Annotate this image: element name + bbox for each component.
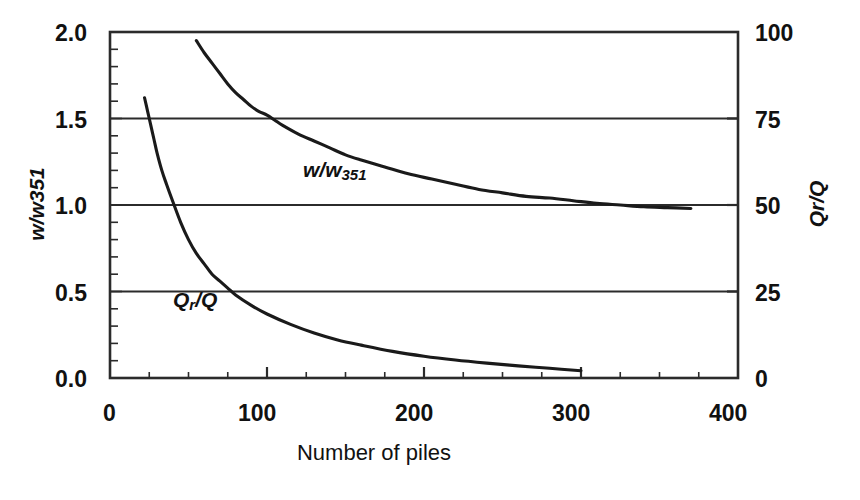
- y-axis-right-tick-label: 75: [755, 107, 781, 134]
- curve-label-q-base: Q: [173, 288, 189, 311]
- y-axis-right-tick-label: 25: [755, 280, 781, 307]
- y-axis-left-tick-label: 1.5: [55, 107, 87, 134]
- x-axis-tick-label: 100: [238, 400, 276, 427]
- x-axis-tick-label: 200: [395, 400, 433, 427]
- x-axis-tick-label: 0: [103, 400, 116, 427]
- curve-label-w-subscript: 351: [342, 166, 367, 183]
- x-axis-tick-label: 400: [709, 400, 747, 427]
- x-axis-title: Number of piles: [0, 440, 748, 466]
- curve-label-q-tail: /Q: [195, 288, 217, 311]
- chart-figure: 2.0 1.5 1.0 0.5 0.0 100 75 50 25 0 0 100…: [0, 0, 860, 500]
- curve-label-w-base: w/w: [303, 158, 342, 181]
- y-axis-right-tick-label: 100: [755, 20, 793, 47]
- y-axis-left-tick-label: 0.5: [55, 280, 87, 307]
- y-axis-right-title: Qr/Q: [805, 129, 829, 279]
- y-axis-left-title: w/w351: [25, 129, 49, 279]
- y-axis-left-tick-label: 2.0: [55, 20, 87, 47]
- x-axis-tick-label: 300: [552, 400, 590, 427]
- curve-label-qr-over-q: Qr/Q: [173, 288, 217, 313]
- y-axis-left-tick-label: 0.0: [55, 366, 87, 393]
- y-axis-right-tick-label: 0: [755, 366, 768, 393]
- curve-label-w-over-w351: w/w351: [303, 158, 367, 183]
- y-axis-right-tick-label: 50: [755, 193, 781, 220]
- y-axis-left-tick-label: 1.0: [55, 193, 87, 220]
